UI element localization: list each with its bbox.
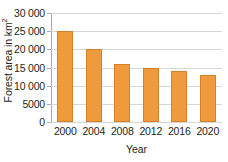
x-axis-tick-label: 2016	[164, 125, 194, 137]
y-axis-tick-label: 20 000	[1, 44, 45, 55]
y-axis-tick-mark	[47, 122, 51, 123]
gridline	[51, 122, 222, 123]
y-axis-tick-label: 30 000	[1, 8, 45, 19]
y-axis-tick-label: 5000	[1, 99, 45, 110]
x-axis-tick-label: 2012	[136, 125, 166, 137]
y-axis-tick-labels: 0500010 00015 00020 00025 00030 000	[1, 0, 45, 162]
bar	[57, 31, 73, 122]
x-axis-tick-label: 2000	[50, 125, 80, 137]
x-axis-title: Year	[51, 143, 222, 155]
x-axis-tick-label: 2020	[193, 125, 223, 137]
bar	[86, 49, 102, 122]
bar-series	[51, 13, 222, 122]
x-axis-tick-label: 2008	[107, 125, 137, 137]
bar	[114, 64, 130, 122]
bar	[200, 75, 216, 122]
y-axis-tick-label: 15 000	[1, 63, 45, 74]
y-axis-tick-label: 0	[1, 117, 45, 128]
y-axis-tick-label: 10 000	[1, 81, 45, 92]
bar-chart: Forest area in km2 0500010 00015 00020 0…	[0, 0, 228, 162]
plot-area	[51, 13, 222, 122]
x-axis-tick-labels: 200020042008201220162020	[51, 125, 222, 139]
y-axis-tick-label: 25 000	[1, 26, 45, 37]
bar	[143, 68, 159, 123]
x-axis-tick-label: 2004	[79, 125, 109, 137]
bar	[171, 71, 187, 122]
